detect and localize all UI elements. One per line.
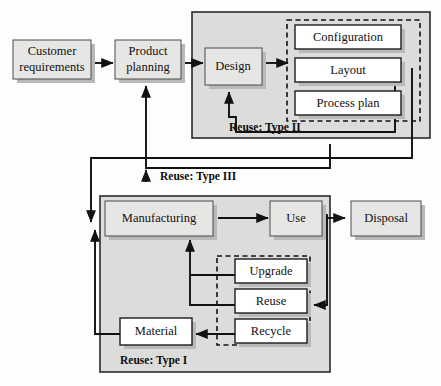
process-plan-label: Process plan bbox=[317, 96, 381, 110]
reuse-label: Reuse bbox=[256, 294, 287, 308]
use-label: Use bbox=[286, 211, 306, 225]
product-planning-label-line2: planning bbox=[126, 60, 170, 74]
customer-requirements-label-line1: Customer bbox=[28, 44, 77, 58]
type-two-group-label: Reuse: Type II bbox=[229, 121, 301, 134]
product-planning-label-line1: Product bbox=[129, 44, 168, 58]
configuration-label: Configuration bbox=[313, 30, 384, 44]
disposal-label: Disposal bbox=[364, 211, 408, 225]
layout-label: Layout bbox=[330, 63, 366, 77]
manufacturing-label: Manufacturing bbox=[122, 211, 197, 225]
design-label: Design bbox=[215, 59, 251, 73]
recycle-label: Recycle bbox=[251, 324, 292, 338]
diagram-canvas: Customer requirements Product planning D… bbox=[0, 0, 441, 386]
type-one-group-label: Reuse: Type I bbox=[120, 354, 188, 367]
type-three-group-label: Reuse: Type III bbox=[160, 170, 237, 183]
lifecycle-reuse-diagram: Customer requirements Product planning D… bbox=[0, 0, 441, 386]
customer-requirements-label-line2: requirements bbox=[19, 60, 84, 74]
material-label: Material bbox=[135, 324, 178, 338]
upgrade-label: Upgrade bbox=[249, 264, 292, 278]
